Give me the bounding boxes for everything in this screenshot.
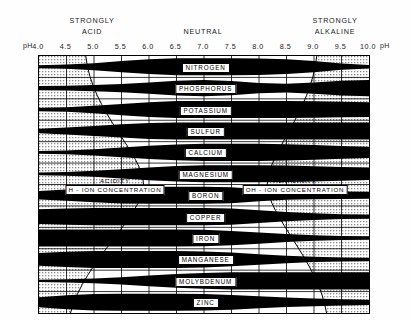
band-label-manganese: MANGANESE — [178, 255, 234, 265]
legend-h-ion-concentration: H - ION CONCENTRATION — [66, 185, 165, 195]
band-label-copper: COPPER — [186, 213, 226, 223]
zone-label-strongly-alkaline-line2: ALKALINE — [295, 27, 375, 36]
axis-tick-7-0: 7.0 — [190, 42, 216, 51]
band-label-zinc: ZINC — [193, 298, 219, 308]
band-label-nitrogen: NITROGEN — [182, 63, 230, 73]
band-label-molybdenum: MOLYBDENUM — [175, 277, 236, 287]
legend-oh-ion-concentration: OH - ION CONCENTRATION — [243, 185, 348, 195]
axis-tick-9-5: 9.5 — [328, 42, 354, 51]
axis-tick-7-5: 7.5 — [218, 42, 244, 51]
band-label-sulfur: SULFUR — [186, 127, 224, 137]
ph-nutrient-availability-chart: STRONGLY ACID NEUTRAL STRONGLY ALKALINE … — [0, 0, 410, 321]
zone-label-strongly-alkaline-line1: STRONGLY — [295, 16, 375, 25]
axis-tick-4-5: 4.5 — [53, 42, 79, 51]
axis-tick-6-5: 6.5 — [163, 42, 189, 51]
zone-label-neutral: NEUTRAL — [168, 27, 238, 36]
band-label-iron: IRON — [192, 234, 219, 244]
axis-tick-9-0: 9.0 — [300, 42, 326, 51]
band-label-potassium: POTASSIUM — [180, 106, 232, 116]
band-label-boron: BORON — [188, 191, 223, 201]
legend-alkalinity: ALKALINITY — [273, 177, 316, 184]
band-label-calcium: CALCIUM — [184, 148, 226, 158]
axis-tick-8-0: 8.0 — [245, 42, 271, 51]
zone-label-strongly-acid-line2: ACID — [57, 27, 127, 36]
axis-tick-8-5: 8.5 — [273, 42, 299, 51]
legend-acidity: ACIDITY — [100, 177, 130, 184]
chart-plot-area: ACIDITY H - ION CONCENTRATION ALKALINITY… — [38, 55, 370, 314]
band-label-magnesium: MAGNESIUM — [178, 170, 232, 180]
band-label-phosphorus: PHOSPHORUS — [175, 84, 236, 94]
axis-tick-5-0: 5.0 — [80, 42, 106, 51]
axis-label-ph-right: pH — [380, 42, 390, 49]
axis-tick-10-0: 10.0 — [355, 42, 381, 51]
axis-tick-6-0: 6.0 — [135, 42, 161, 51]
axis-tick-5-5: 5.5 — [108, 42, 134, 51]
axis-tick-4-0: 4.0 — [25, 42, 51, 51]
zone-label-strongly-acid-line1: STRONGLY — [57, 16, 127, 25]
